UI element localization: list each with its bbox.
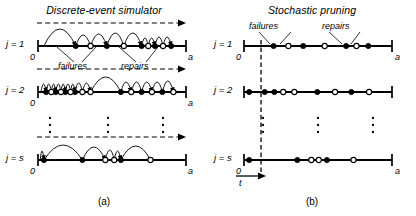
panel-b-row-label-1: j = 1 [214,38,232,49]
panel-a-caption: (a) [0,196,208,207]
panel-b-timeline-row [244,154,392,166]
repair-marker [354,43,359,48]
event-arc [82,147,105,160]
failure-marker [139,89,144,94]
panel-a-graphics [0,0,208,216]
repair-marker [80,89,85,94]
event-arc [44,145,82,160]
panel-b-end-label-3: a [395,166,400,176]
panel-b-vertical-ellipsis [262,117,374,133]
panel-b-end-label-1: a [395,52,400,62]
panel-stochastic-pruning: Stochastic pruning j = 1 j = 2 j = s [208,0,416,216]
repair-marker [129,89,134,94]
figure-root: Discrete-event simulator [0,0,416,216]
repair-marker [351,157,356,162]
panel-a-row-label-2: j = 2 [6,84,24,95]
panel-a-time-arrowhead [178,65,186,72]
failure-marker [247,157,252,162]
event-arc [107,33,124,46]
event-arc [121,146,151,160]
repair-marker [68,89,73,94]
panel-a-timeline-row [37,19,186,52]
repair-marker [286,43,291,48]
repair-marker [49,89,54,94]
panel-b-timeline-row [244,86,392,98]
panel-a-repairs-label: repairs [121,61,149,71]
panel-b-annotation-leaders [259,32,360,44]
panel-a-row-label-3: j = s [6,152,24,163]
repair-marker [148,157,153,162]
failure-marker [315,89,320,94]
panel-b-repairs-label: repairs [322,21,350,31]
failure-marker [324,157,329,162]
repair-marker [366,89,371,94]
repair-marker [149,89,154,94]
repair-marker [58,89,63,94]
repair-marker [322,43,327,48]
failure-marker [104,43,109,48]
failure-marker [80,157,85,162]
panel-b-time-label: t [239,178,242,188]
failure-marker [344,43,349,48]
failure-marker [118,89,123,94]
repair-marker [316,157,321,162]
failure-marker [73,43,78,48]
panel-a-time-arrowhead [178,133,186,140]
failure-marker [271,43,276,48]
panel-a-end-label-2: a [188,98,193,108]
panel-a-origin-label-2: 0 [30,98,35,108]
panel-a-failures-label: failures [58,61,87,71]
repair-marker [171,89,176,94]
panel-b-origin-label-3: 0 [236,166,241,176]
repair-marker [112,157,117,162]
panel-b-row-label-3: j = s [214,152,232,163]
failure-marker [262,89,267,94]
repair-marker [103,157,108,162]
repair-marker [88,43,93,48]
repair-marker [309,157,314,162]
panel-a-origin-label-3: 0 [30,166,35,176]
failure-marker [44,89,49,94]
repair-marker [121,43,126,48]
panel-a-row-label-1: j = 1 [6,38,24,49]
failure-marker [301,43,306,48]
event-arc [44,29,76,46]
panel-b-row-label-2: j = 2 [214,84,232,95]
failure-marker [160,89,165,94]
panel-b-caption: (b) [208,196,416,207]
failure-marker [139,43,144,48]
repair-marker [88,89,93,94]
panel-a-end-label-3: a [188,166,193,176]
failure-marker [152,43,157,48]
repair-marker [332,89,337,94]
failure-marker [349,89,354,94]
panel-b-failures-label: failures [249,21,278,31]
repair-marker [292,89,297,94]
repair-marker [146,43,151,48]
panel-a-end-label-1: a [188,52,193,62]
failure-marker [169,43,174,48]
repair-marker [160,43,165,48]
failure-marker [247,89,252,94]
panel-b-timeline-row [244,40,392,52]
panel-discrete-event-simulator: Discrete-event simulator [0,0,208,216]
failure-marker [366,43,371,48]
panel-a-annotation-leaders [57,47,158,62]
panel-b-origin-label-1: 0 [236,52,241,62]
event-arc [124,33,142,46]
repair-marker [281,89,286,94]
panel-a-origin-label-1: 0 [30,52,35,62]
failure-marker [272,89,277,94]
panel-a-timeline-row [37,133,186,166]
panel-a-time-arrowhead [178,19,186,26]
failure-marker [295,157,300,162]
failure-marker [41,157,46,162]
panel-a-vertical-ellipsis [49,117,164,133]
event-arc [91,77,121,92]
failure-marker [118,157,123,162]
